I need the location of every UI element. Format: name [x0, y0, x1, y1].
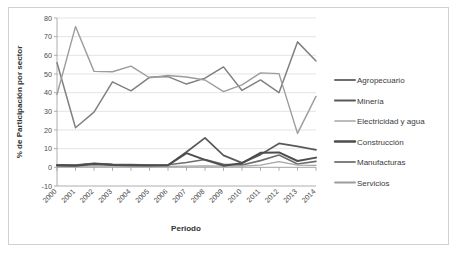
y-tick-label: 50	[44, 70, 52, 79]
line-chart: -100102030405060708020002001200220032004…	[0, 0, 461, 254]
x-tick-label: 2011	[245, 187, 262, 204]
y-tick-label: 20	[44, 126, 52, 135]
x-tick-label: 2009	[207, 187, 225, 205]
series-line-construcci-n	[57, 152, 316, 165]
y-tick-label: 80	[44, 14, 52, 23]
chart-svg: -100102030405060708020002001200220032004…	[0, 0, 461, 254]
x-tick-label: 2001	[59, 187, 77, 205]
x-tick-label: 2002	[78, 187, 96, 205]
legend-label-5: Manufacturas	[357, 158, 405, 167]
x-tick-label: 2003	[96, 187, 114, 205]
y-tick-label: 40	[44, 88, 52, 97]
x-tick-label: 2013	[281, 187, 299, 205]
legend-label-3: Electricidad y agua	[357, 117, 425, 126]
series-line-manufacturas	[57, 42, 316, 128]
y-axis-title: % de Participación por sector	[15, 46, 24, 158]
x-tick-label: 2010	[226, 187, 244, 205]
legend-label-6: Servicios	[357, 179, 389, 188]
x-tick-label: 2008	[189, 187, 207, 205]
x-tick-label: 2012	[263, 187, 281, 205]
x-tick-label: 2014	[300, 187, 318, 205]
x-tick-label: 2004	[115, 187, 133, 205]
x-tick-label: 2006	[152, 187, 170, 205]
series-line-servicios	[57, 27, 316, 134]
x-tick-label: 2007	[170, 187, 188, 205]
legend-label-4: Construcción	[357, 138, 404, 147]
legend-label-1: Agropecuario	[357, 76, 405, 85]
legend-label-2: Minería	[357, 97, 384, 106]
y-tick-label: 0	[48, 163, 52, 172]
y-tick-label: 60	[44, 51, 52, 60]
y-tick-label: 10	[44, 144, 52, 153]
y-tick-label: 70	[44, 32, 52, 41]
x-axis-title: Periodo	[171, 224, 201, 233]
y-tick-label: 30	[44, 107, 52, 116]
x-tick-label: 2005	[133, 187, 151, 205]
